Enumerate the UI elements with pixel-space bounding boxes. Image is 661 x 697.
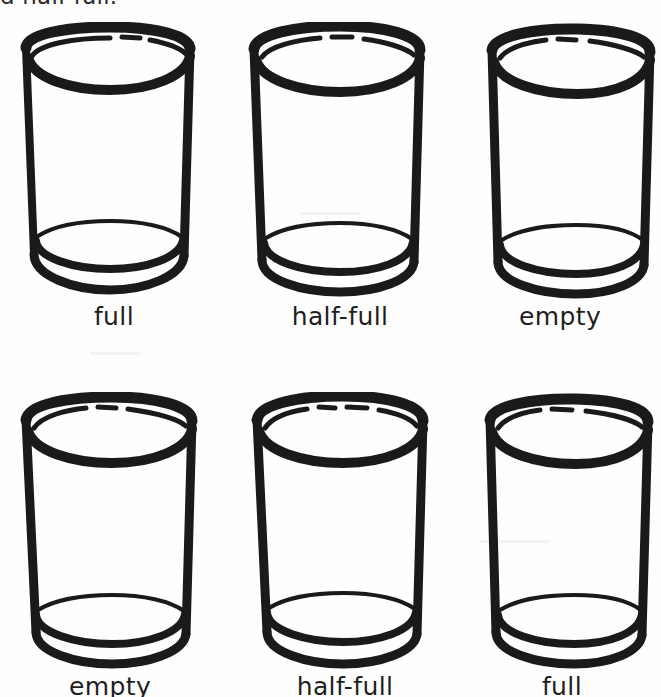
glass-label: half-full	[240, 304, 440, 329]
glass-figure-cell: full	[462, 392, 661, 697]
drinking-glass-icon	[460, 22, 660, 302]
glass-label: full	[462, 674, 661, 697]
worksheet-page: d half-full. full	[0, 0, 661, 697]
drinking-glass-icon	[462, 392, 661, 672]
glass-figure-cell: half-full	[240, 22, 440, 329]
drinking-glass-icon	[14, 22, 214, 302]
scan-artifact	[90, 352, 140, 355]
glass-label: empty	[10, 674, 210, 697]
glass-figure-cell: full	[14, 22, 214, 329]
glass-label: half-full	[245, 674, 445, 697]
drinking-glass-icon	[10, 392, 210, 672]
drinking-glass-icon	[240, 22, 440, 302]
glass-figure-cell: half-full	[245, 392, 445, 697]
glass-label: empty	[460, 304, 660, 329]
glass-figure-cell: empty	[460, 22, 660, 329]
glass-label: full	[14, 304, 214, 329]
glass-figure-cell: empty	[10, 392, 210, 697]
clipped-caption-text: d half-full.	[0, 0, 300, 9]
drinking-glass-icon	[245, 392, 445, 672]
